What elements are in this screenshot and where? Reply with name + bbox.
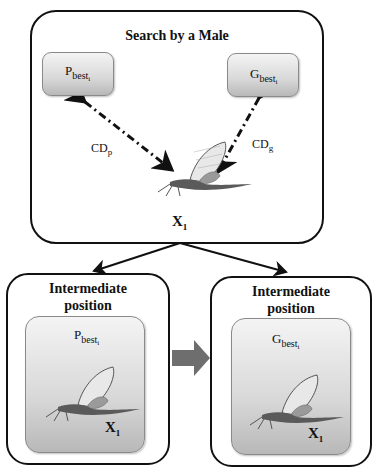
mayfly-icon [242,373,342,443]
mayfly-icon [150,140,250,210]
gbest-label: Gbesti [250,66,277,86]
box-title-line1: Intermediate [212,283,370,300]
x1-label-left: X1 [105,419,120,438]
gbest-inner-box: Gbesti X1 [231,318,351,455]
arrow-top-to-left [94,243,180,271]
arrow-top-to-right [180,243,286,272]
cdg-label: CDg [252,137,273,153]
x1-label-right: X1 [308,425,323,444]
box-title: Search by a Male [32,27,322,44]
gbest-inner-label: Gbesti [272,331,299,351]
pbest-label: Pbesti [65,63,90,83]
box-title-line2: position [212,300,370,317]
pbest-box: Pbesti [42,52,114,96]
pbest-inner-box: Pbesti X1 [25,316,145,453]
gbest-box: Gbesti [227,53,299,97]
x1-label-top: X1 [172,213,187,232]
box-title-line1: Intermediate [8,280,168,297]
cdp-label: CDp [91,141,112,157]
box-title-line2: position [8,297,168,314]
block-arrow-icon [172,340,212,380]
pbest-inner-label: Pbesti [74,327,99,347]
mayfly-icon [38,365,138,435]
